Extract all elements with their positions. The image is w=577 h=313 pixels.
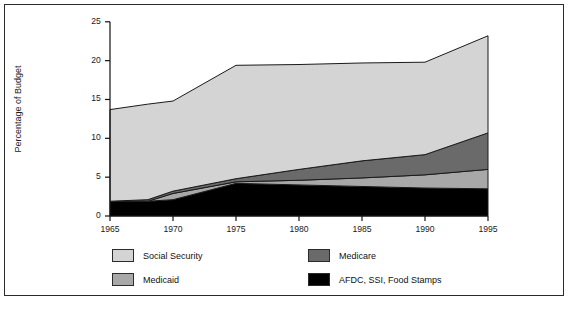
x-tick-label: 1965 (80, 224, 140, 234)
legend-swatch (112, 249, 134, 262)
y-tick-label: 15 (0, 93, 101, 103)
legend-label: AFDC, SSI, Food Stamps (339, 275, 442, 285)
stacked-areas (110, 36, 488, 216)
chart-legend: Social SecurityMedicaidMedicareAFDC, SSI… (112, 249, 472, 295)
legend-item: AFDC, SSI, Food Stamps (308, 273, 442, 286)
y-tick-label: 10 (0, 132, 101, 142)
figure-container: Percentage of Budget 0510152025 19651970… (0, 0, 577, 313)
y-tick-label: 0 (0, 210, 101, 220)
legend-item: Social Security (112, 249, 203, 262)
x-tick-label: 1995 (458, 224, 518, 234)
legend-swatch (308, 273, 330, 286)
x-tick-label: 1970 (143, 224, 203, 234)
y-tick-label: 20 (0, 55, 101, 65)
x-tick-label: 1990 (395, 224, 455, 234)
legend-label: Medicare (339, 251, 376, 261)
legend-label: Medicaid (143, 275, 179, 285)
x-tick-label: 1985 (332, 224, 392, 234)
legend-swatch (308, 249, 330, 262)
legend-item: Medicare (308, 249, 376, 262)
legend-swatch (112, 273, 134, 286)
y-axis-title: Percentage of Budget (13, 49, 23, 169)
x-tick-label: 1980 (269, 224, 329, 234)
y-tick-label: 25 (0, 16, 101, 26)
legend-item: Medicaid (112, 273, 179, 286)
legend-label: Social Security (143, 251, 203, 261)
x-tick-label: 1975 (206, 224, 266, 234)
y-tick-label: 5 (0, 171, 101, 181)
figure-caption (6, 303, 566, 313)
